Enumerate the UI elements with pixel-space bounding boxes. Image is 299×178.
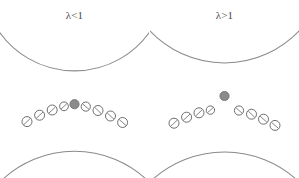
bead-chain-left-side <box>22 102 68 127</box>
upper-arc-right <box>150 30 299 63</box>
panel-lambda-greater-than-one: λ>1 <box>150 0 299 178</box>
panel-right-graphic <box>150 0 299 178</box>
bead-tick <box>249 111 255 117</box>
bead-tick <box>208 108 213 113</box>
contact-point-marker <box>220 91 229 100</box>
panel-left-graphic <box>0 0 149 178</box>
upper-arc-left <box>0 30 149 71</box>
bead-tick <box>260 116 266 122</box>
bead-tick <box>61 104 66 109</box>
bead-tick <box>95 108 101 114</box>
bead-tick <box>83 104 89 109</box>
bead-tick <box>171 120 178 126</box>
bead-chain-left-side <box>169 106 215 128</box>
panel-lambda-less-than-one: λ<1 <box>0 0 149 178</box>
bead-tick <box>196 110 202 116</box>
bead-tick <box>119 120 125 126</box>
bead-tick <box>272 123 278 128</box>
bead-tick <box>36 112 43 118</box>
bead-chain-right-side <box>81 102 127 128</box>
bead-tick <box>183 114 189 120</box>
bead-tick <box>107 113 113 119</box>
bead-tick <box>236 108 242 113</box>
bead-tick <box>24 118 31 124</box>
bead-chain-right-side <box>234 106 280 130</box>
figure-container: λ<1 <box>0 0 299 178</box>
bead-tick <box>49 107 55 113</box>
lower-arc-right <box>152 152 297 178</box>
contact-point-marker <box>70 100 79 109</box>
lower-arc-left <box>2 151 147 178</box>
